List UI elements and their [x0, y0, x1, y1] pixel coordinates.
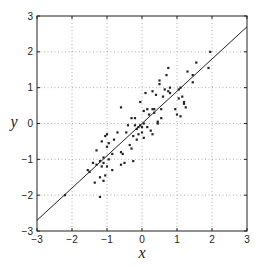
x-tick-label: −1	[101, 234, 113, 245]
x-axis-ticks: −3−2−10123	[31, 16, 250, 245]
data-point	[186, 70, 188, 72]
data-point	[160, 117, 162, 119]
data-point	[148, 113, 150, 115]
data-point	[104, 174, 106, 176]
data-point	[183, 103, 185, 105]
x-tick-label: 2	[209, 234, 215, 245]
data-point	[130, 147, 132, 149]
y-tick-label: −3	[22, 226, 34, 237]
data-point	[144, 92, 146, 94]
data-point	[209, 51, 211, 53]
data-point	[162, 96, 164, 98]
y-tick-label: 0	[27, 118, 33, 129]
x-tick-label: 3	[244, 234, 250, 245]
data-point	[141, 131, 143, 133]
data-point	[127, 124, 129, 126]
data-point	[132, 160, 134, 162]
data-point	[174, 108, 176, 110]
data-point	[195, 61, 197, 63]
data-point	[99, 196, 101, 198]
chart-canvas: −3−2−10123 −3−2−10123 x y	[0, 0, 263, 267]
data-point	[176, 113, 178, 115]
data-point	[120, 151, 122, 153]
y-axis-label: y	[8, 113, 18, 131]
data-point	[99, 160, 101, 162]
data-point	[134, 124, 136, 126]
data-point	[102, 162, 104, 164]
data-point	[185, 106, 187, 108]
data-point	[137, 133, 139, 135]
data-point	[178, 97, 180, 99]
data-point	[165, 74, 167, 76]
data-point	[125, 131, 127, 133]
data-point	[146, 108, 148, 110]
data-point	[106, 146, 108, 148]
data-point	[143, 110, 145, 112]
data-point	[167, 90, 169, 92]
data-point	[132, 135, 134, 137]
data-point	[106, 165, 108, 167]
data-point	[123, 162, 125, 164]
data-point	[102, 156, 104, 158]
data-point	[101, 165, 103, 167]
data-point	[153, 112, 155, 114]
data-point	[192, 81, 194, 83]
data-point	[192, 74, 194, 76]
y-tick-label: −2	[22, 190, 34, 201]
data-point	[143, 122, 145, 124]
data-point	[178, 88, 180, 90]
data-point	[207, 67, 209, 69]
data-point	[116, 131, 118, 133]
x-axis-label: x	[137, 244, 145, 261]
x-tick-label: 1	[174, 234, 180, 245]
data-point	[164, 88, 166, 90]
data-point	[95, 164, 97, 166]
data-point	[111, 153, 113, 155]
data-point	[155, 94, 157, 96]
data-point	[87, 169, 89, 171]
data-point	[150, 130, 152, 132]
x-tick-label: −2	[66, 234, 78, 245]
data-point	[130, 117, 132, 119]
data-point	[169, 87, 171, 89]
data-point	[111, 169, 113, 171]
y-tick-label: 3	[27, 11, 33, 22]
data-point	[108, 158, 110, 160]
data-point	[101, 140, 103, 142]
data-point	[104, 135, 106, 137]
x-tick-label: −3	[31, 234, 43, 245]
data-point	[113, 139, 115, 141]
data-point	[158, 79, 160, 81]
data-point	[108, 142, 110, 144]
data-point	[136, 139, 138, 141]
data-point	[181, 96, 183, 98]
data-point	[64, 194, 66, 196]
data-point	[94, 182, 96, 184]
data-point	[151, 108, 153, 110]
data-point	[160, 108, 162, 110]
y-tick-label: −1	[22, 154, 34, 165]
data-point	[136, 128, 138, 130]
data-point	[129, 144, 131, 146]
data-point	[157, 122, 159, 124]
data-point	[151, 133, 153, 135]
y-tick-label: 2	[27, 46, 33, 57]
data-point	[146, 126, 148, 128]
data-point	[102, 180, 104, 182]
y-tick-label: 1	[27, 82, 33, 93]
data-point	[92, 162, 94, 164]
data-point	[120, 164, 122, 166]
data-point	[99, 176, 101, 178]
data-points	[64, 51, 211, 198]
data-point	[95, 149, 97, 151]
data-point	[139, 101, 141, 103]
data-point	[179, 115, 181, 117]
data-point	[120, 106, 122, 108]
data-point	[167, 67, 169, 69]
scatter-chart: −3−2−10123 −3−2−10123 x y	[0, 0, 263, 267]
data-point	[158, 83, 160, 85]
data-point	[143, 137, 145, 139]
data-point	[151, 90, 153, 92]
data-point	[134, 117, 136, 119]
